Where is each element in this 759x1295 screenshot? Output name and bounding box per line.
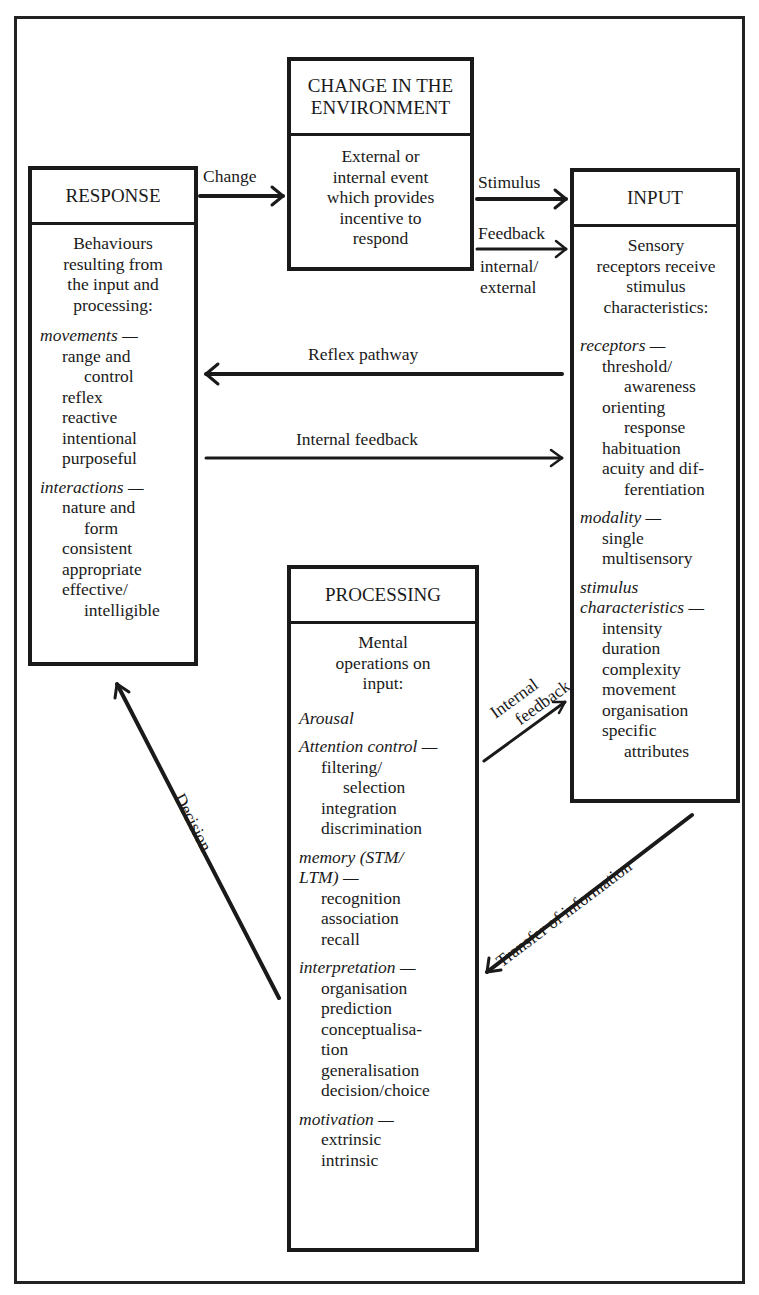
intro-line: characteristics: [580,297,732,318]
feedback-sub-line: external [480,277,538,298]
section-item: complexity [580,659,732,680]
section-item: single [580,528,732,549]
section-stimulus-characteristics: stimulus characteristics — intensity dur… [580,577,732,762]
section-movements: movements — range and control reflex rea… [40,325,186,469]
section-item: multisensory [580,548,732,569]
section-title: LTM) — [299,867,467,888]
section-title: stimulus [580,577,732,598]
section-item: association [299,908,467,929]
section-item: intelligible [40,600,186,621]
section-item: movement [580,679,732,700]
feedback-label: Feedback [478,223,545,243]
section-title: motivation — [299,1109,467,1130]
intro-line: stimulus [580,276,732,297]
section-item: purposeful [40,448,186,469]
box-title: CHANGE IN THE ENVIRONMENT [291,61,470,136]
section-item: recognition [299,888,467,909]
stimulus-label: Stimulus [478,172,540,192]
section-item: control [40,366,186,387]
section-interactions: interactions — nature and form consisten… [40,477,186,621]
section-item: decision/choice [299,1080,467,1101]
title-line: CHANGE IN THE [308,75,453,97]
feedback-sub-label: internal/ external [480,256,538,298]
section-title: Arousal [299,708,467,729]
intro-line: Sensory [580,235,732,256]
processing-box: PROCESSING Mental operations on input: A… [287,565,479,1252]
section-item: specific [580,720,732,741]
section-item: organisation [580,700,732,721]
section-title: receptors — [580,335,732,356]
section-item: appropriate [40,559,186,580]
section-item: organisation [299,978,467,999]
intro-line: respond [299,228,462,249]
section-item: ferentiation [580,479,732,500]
section-title: movements — [40,325,186,346]
intro-line: Mental [299,632,467,653]
section-title: characteristics — [580,597,732,618]
intro-line: receptors receive [580,256,732,277]
section-motivation: motivation — extrinsic intrinsic [299,1109,467,1171]
section-modality: modality — single multisensory [580,507,732,569]
title-text: PROCESSING [325,584,441,606]
section-attention-control: Attention control — filtering/ selection… [299,736,467,839]
intro-line: Behaviours [40,233,186,254]
section-item: discrimination [299,818,467,839]
section-item: extrinsic [299,1129,467,1150]
title-line: ENVIRONMENT [311,97,450,119]
section-item: threshold/ [580,356,732,377]
section-item: orienting [580,397,732,418]
section-item: intentional [40,428,186,449]
section-item: intrinsic [299,1150,467,1171]
section-item: awareness [580,376,732,397]
response-box: RESPONSE Behaviours resulting from the i… [28,166,198,666]
section-receptors: receptors — threshold/ awareness orienti… [580,335,732,499]
section-title: interpretation — [299,957,467,978]
change-in-environment-box: CHANGE IN THE ENVIRONMENT External or in… [287,57,474,271]
section-item: reflex [40,387,186,408]
section-item: attributes [580,741,732,762]
section-item: intensity [580,618,732,639]
section-item: habituation [580,438,732,459]
intro-line: processing: [40,295,186,316]
intro-line: input: [299,673,467,694]
section-title: modality — [580,507,732,528]
section-item: consistent [40,538,186,559]
section-item: duration [580,638,732,659]
change-label: Change [203,166,256,186]
section-item: form [40,518,186,539]
internal-feedback-label: Internal feedback [296,429,418,449]
title-text: RESPONSE [65,185,160,207]
intro-line: incentive to [299,208,462,229]
section-item: acuity and dif- [580,458,732,479]
section-title: Attention control — [299,736,467,757]
box-title: RESPONSE [32,170,194,225]
title-text: INPUT [627,187,683,209]
intro-line: resulting from [40,254,186,275]
section-item: selection [299,777,467,798]
feedback-sub-line: internal/ [480,256,538,277]
box-title: PROCESSING [291,569,475,624]
section-item: integration [299,798,467,819]
section-title: interactions — [40,477,186,498]
section-item: reactive [40,407,186,428]
intro-line: which provides [299,187,462,208]
intro-line: operations on [299,653,467,674]
section-item: recall [299,929,467,950]
input-box: INPUT Sensory receptors receive stimulus… [570,168,740,803]
section-item: tion [299,1039,467,1060]
section-item: generalisation [299,1060,467,1081]
intro-line: internal event [299,167,462,188]
box-title: INPUT [574,172,736,227]
section-item: prediction [299,998,467,1019]
section-item: effective/ [40,579,186,600]
intro-line: the input and [40,274,186,295]
section-arousal: Arousal [299,708,467,729]
section-item: range and [40,346,186,367]
section-item: nature and [40,497,186,518]
section-item: filtering/ [299,757,467,778]
section-title: memory (STM/ [299,847,467,868]
section-memory: memory (STM/ LTM) — recognition associat… [299,847,467,950]
section-interpretation: interpretation — organisation prediction… [299,957,467,1101]
intro-line: External or [299,146,462,167]
section-item: conceptualisa- [299,1019,467,1040]
